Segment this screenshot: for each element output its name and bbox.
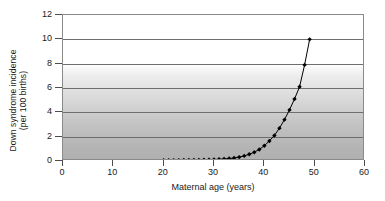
x-axis-tick-label: 30 [208, 167, 218, 177]
data-point-marker [297, 85, 301, 89]
x-axis-tick [62, 160, 63, 166]
data-point-marker [292, 97, 296, 101]
x-axis-tick [163, 160, 164, 166]
data-point-marker [177, 158, 181, 160]
y-axis-tick [55, 136, 62, 137]
series-line [164, 39, 310, 160]
data-point-marker [237, 155, 241, 159]
data-point-marker [172, 158, 176, 160]
data-point-marker [302, 63, 306, 67]
x-axis-tick [213, 160, 214, 166]
chart-container: Down syndrome incidence (per 100 births)… [0, 0, 385, 201]
data-point-marker [282, 117, 286, 121]
y-axis-tick-label: 0 [47, 155, 52, 165]
data-series [63, 15, 364, 160]
plot-area [62, 14, 364, 160]
y-axis-tick-label: 10 [42, 33, 52, 43]
data-point-marker [192, 158, 196, 160]
y-axis-tick [55, 160, 62, 161]
x-axis-tick-label: 40 [258, 167, 268, 177]
y-axis-tick [55, 38, 62, 39]
data-point-marker [167, 158, 171, 160]
data-point-marker [207, 157, 211, 160]
x-axis-tick [263, 160, 264, 166]
data-point-marker [242, 154, 246, 158]
data-point-marker [202, 158, 206, 160]
y-axis-tick [55, 14, 62, 15]
data-point-marker [307, 37, 311, 41]
x-axis-tick-label: 20 [158, 167, 168, 177]
data-point-marker [187, 158, 191, 160]
data-point-marker [252, 150, 256, 154]
y-axis-title-line1: Down syndrome incidence [8, 50, 18, 152]
x-axis-tick-label: 60 [359, 167, 369, 177]
x-axis-tick [314, 160, 315, 166]
data-point-marker [232, 156, 236, 160]
data-point-marker [227, 156, 231, 160]
x-axis-title: Maternal age (years) [62, 182, 364, 192]
y-axis-tick-label: 12 [42, 9, 52, 19]
x-axis-tick [112, 160, 113, 166]
x-axis-tick-label: 10 [107, 167, 117, 177]
data-point-marker [287, 108, 291, 112]
x-axis-tick-label: 50 [309, 167, 319, 177]
x-axis-tick-label: 0 [59, 167, 64, 177]
y-axis-tick-label: 6 [47, 82, 52, 92]
data-point-marker [217, 157, 221, 160]
y-axis-title: Down syndrome incidence (per 100 births) [0, 0, 36, 201]
data-point-marker [222, 157, 226, 160]
y-axis-tick [55, 87, 62, 88]
data-point-marker [247, 152, 251, 156]
y-axis-tick [55, 63, 62, 64]
y-axis-tick-label: 8 [47, 58, 52, 68]
x-axis-tick [364, 160, 365, 166]
y-axis-tick-label: 4 [47, 106, 52, 116]
y-axis-title-line2: (per 100 births) [18, 50, 28, 152]
y-axis-tick [55, 111, 62, 112]
data-point-marker [182, 158, 186, 160]
data-point-marker [197, 158, 201, 160]
y-axis-tick-label: 2 [47, 131, 52, 141]
